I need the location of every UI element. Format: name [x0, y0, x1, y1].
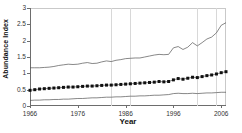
data-point-marker [205, 74, 208, 77]
data-point-marker [153, 81, 156, 84]
data-point-marker [43, 87, 46, 90]
data-point-marker [72, 86, 75, 89]
x-axis-tick-label: 1966 [23, 110, 37, 117]
data-point-marker [181, 78, 184, 81]
data-point-marker [91, 85, 94, 88]
data-point-marker [215, 72, 218, 75]
x-axis-title: Year [30, 117, 226, 126]
y-axis-tick-label: 3 [22, 5, 26, 12]
data-point-marker [172, 78, 175, 81]
data-point-marker [129, 82, 132, 85]
data-point-marker [115, 83, 118, 86]
series-layer [30, 8, 226, 106]
x-axis-tick-label: 1976 [71, 110, 85, 117]
data-point-marker [110, 84, 113, 87]
data-point-marker [186, 77, 189, 80]
data-point-marker [67, 86, 70, 89]
plot-area: 00.511.522.53 19661976198619962006 [30, 8, 226, 106]
y-axis-tick-label: 1.5 [17, 54, 26, 61]
data-point-marker [48, 87, 51, 90]
x-axis-tick-label: 1986 [118, 110, 132, 117]
data-point-marker [167, 80, 170, 83]
data-point-marker [62, 86, 65, 89]
y-axis-tick-label: 0 [22, 103, 26, 110]
y-axis-tick-label: 2.5 [17, 21, 26, 28]
y-axis-tick-label: 2 [22, 37, 26, 44]
data-point-marker [158, 80, 161, 83]
data-point-marker [177, 77, 180, 80]
data-point-marker [143, 81, 146, 84]
data-point-marker [52, 87, 55, 90]
data-point-marker [124, 83, 127, 86]
series-line-lower-confidence-bound [30, 92, 226, 100]
data-point-marker [100, 84, 103, 87]
x-axis-tick-label: 1996 [166, 110, 180, 117]
data-point-marker [201, 75, 204, 78]
y-axis-tick-label: 1 [22, 70, 26, 77]
data-point-marker [210, 73, 213, 76]
abundance-index-chart: Abundance Index 00.511.522.53 1966197619… [0, 0, 242, 133]
y-axis-title: Abundance Index [0, 0, 11, 98]
data-point-marker [196, 76, 199, 79]
data-point-marker [81, 85, 84, 88]
x-axis-tick-label: 2006 [214, 110, 228, 117]
y-axis-tick-label: 0.5 [17, 86, 26, 93]
data-point-marker [225, 70, 228, 73]
data-point-marker [148, 81, 151, 84]
y-axis-title-text: Abundance Index [2, 19, 9, 79]
data-point-marker [162, 80, 165, 83]
data-point-marker [105, 84, 108, 87]
data-point-marker [138, 82, 141, 85]
data-point-marker [86, 85, 89, 88]
data-point-marker [38, 88, 41, 91]
data-point-marker [95, 84, 98, 87]
series-line-upper-confidence-bound [30, 23, 226, 68]
data-point-marker [29, 89, 32, 92]
data-point-marker [76, 85, 79, 88]
data-point-marker [220, 71, 223, 74]
data-point-marker [57, 86, 60, 89]
data-point-marker [134, 82, 137, 85]
data-point-marker [33, 88, 36, 91]
data-point-marker [191, 76, 194, 79]
data-point-marker [119, 83, 122, 86]
